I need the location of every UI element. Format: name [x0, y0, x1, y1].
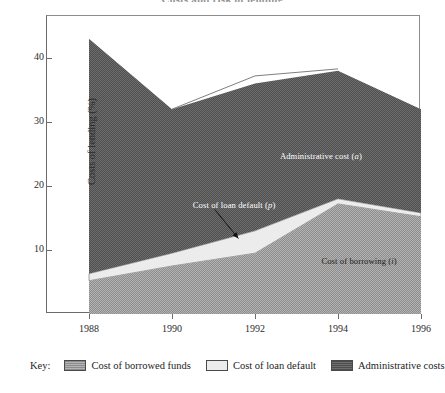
y-tick-mark — [47, 186, 52, 187]
x-tick-label-1994: 1994 — [313, 323, 363, 334]
legend-label-0: Cost of borrowed funds — [91, 360, 190, 371]
cost-of-borrowing-label: Cost of borrowing (i) — [321, 256, 396, 266]
legend-swatch-0 — [64, 360, 86, 371]
cost-of-borrowing-label-paren: ) — [394, 256, 397, 266]
x-tick-label-1992: 1992 — [230, 323, 280, 334]
y-tick-label-30: 30 — [18, 115, 44, 126]
legend: Key: Cost of borrowed fundsCost of loan … — [30, 360, 445, 371]
x-tick-mark — [89, 314, 90, 319]
y-tick-mark — [47, 250, 52, 251]
x-tick-label-1988: 1988 — [64, 323, 114, 334]
administrative-cost-label: Administrative cost (a) — [280, 151, 362, 161]
x-tick-label-1996: 1996 — [396, 323, 445, 334]
legend-label-1: Cost of loan default — [233, 360, 316, 371]
chart-title: Costs and risk of lending — [0, 0, 445, 2]
plot-svg — [47, 16, 421, 314]
x-tick-label-1990: 1990 — [147, 323, 197, 334]
y-axis-title: Costs of lending (%) — [86, 72, 97, 212]
legend-item-2[interactable]: Administrative costs — [331, 360, 445, 371]
chart-figure: Costs and risk of lending Costs of lendi… — [0, 0, 445, 393]
x-tick-mark — [338, 314, 339, 319]
legend-items: Cost of borrowed fundsCost of loan defau… — [64, 360, 445, 371]
series-layer — [89, 39, 421, 314]
x-tick-mark — [255, 314, 256, 319]
x-tick-mark — [421, 314, 422, 319]
legend-swatch-1 — [206, 360, 228, 371]
x-tick-mark — [172, 314, 173, 319]
legend-item-0[interactable]: Cost of borrowed funds — [64, 360, 190, 371]
administrative-cost-label-paren: ) — [359, 151, 362, 161]
y-tick-label-10: 10 — [18, 243, 44, 254]
legend-key-label: Key: — [30, 360, 50, 371]
plot-area: Costs of lending (%) 10203040 1988199019… — [46, 15, 420, 313]
y-tick-label-20: 20 — [18, 179, 44, 190]
y-tick-mark — [47, 58, 52, 59]
loan-default-label-paren: ) — [272, 200, 275, 210]
y-tick-label-40: 40 — [18, 51, 44, 62]
loan-default-label-text: Cost of loan default ( — [193, 200, 268, 210]
cost-of-borrowing-label-text: Cost of borrowing ( — [321, 256, 391, 266]
administrative-cost-label-text: Administrative cost ( — [280, 151, 355, 161]
legend-label-2: Administrative costs — [358, 360, 445, 371]
loan-default-label: Cost of loan default (p) — [193, 200, 276, 210]
y-tick-mark — [47, 122, 52, 123]
legend-item-1[interactable]: Cost of loan default — [206, 360, 316, 371]
legend-swatch-2 — [331, 360, 353, 371]
